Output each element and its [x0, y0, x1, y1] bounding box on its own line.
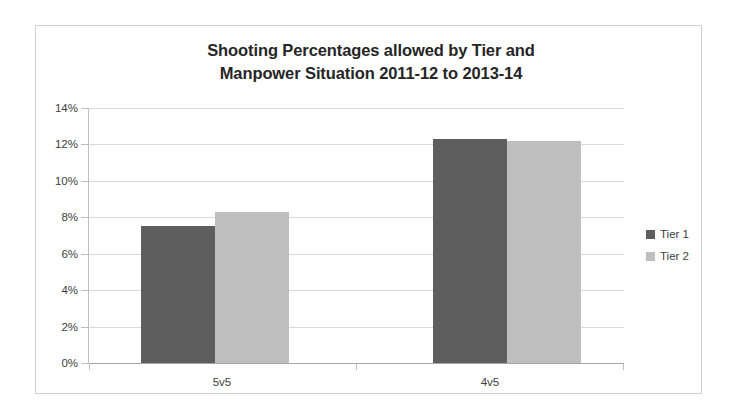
- x-axis-divider-right: [623, 363, 624, 370]
- y-axis-label-2: 2%: [18, 321, 78, 333]
- gridline-14: [89, 108, 624, 109]
- x-axis-label-4v5: 4v5: [481, 376, 500, 388]
- legend-item-tier2[interactable]: Tier 2: [646, 245, 689, 267]
- y-tick-8: [81, 217, 89, 218]
- y-axis-label-14: 14%: [18, 102, 78, 114]
- plot-area: 14% 12% 10% 8% 6% 4% 2% 0% 5v5 4v: [89, 108, 624, 363]
- bar-5v5-tier1[interactable]: [141, 226, 215, 363]
- chart-title: Shooting Percentages allowed by Tier and…: [76, 39, 666, 86]
- bar-5v5-tier2[interactable]: [215, 212, 289, 363]
- y-tick-0: [81, 363, 89, 364]
- y-tick-10: [81, 181, 89, 182]
- legend: Tier 1 Tier 2: [646, 223, 689, 267]
- legend-swatch-icon-tier2: [646, 252, 655, 261]
- chart-container: Shooting Percentages allowed by Tier and…: [35, 25, 702, 394]
- y-axis-label-12: 12%: [18, 138, 78, 150]
- legend-label-tier1: Tier 1: [660, 228, 689, 240]
- y-tick-6: [81, 254, 89, 255]
- bar-4v5-tier1[interactable]: [433, 139, 507, 363]
- bar-4v5-tier2[interactable]: [507, 141, 581, 363]
- y-tick-4: [81, 290, 89, 291]
- y-axis-label-0: 0%: [18, 357, 78, 369]
- y-tick-2: [81, 327, 89, 328]
- chart-title-line-2: Manpower Situation 2011-12 to 2013-14: [76, 62, 666, 85]
- y-axis-line: [88, 108, 89, 363]
- x-axis-divider-middle: [356, 363, 357, 370]
- y-axis-label-8: 8%: [18, 211, 78, 223]
- legend-item-tier1[interactable]: Tier 1: [646, 223, 689, 245]
- legend-label-tier2: Tier 2: [660, 250, 689, 262]
- y-tick-14: [81, 108, 89, 109]
- y-axis-label-6: 6%: [18, 248, 78, 260]
- y-tick-12: [81, 144, 89, 145]
- y-axis-label-4: 4%: [18, 284, 78, 296]
- y-axis-label-10: 10%: [18, 175, 78, 187]
- x-axis-label-5v5: 5v5: [213, 376, 232, 388]
- chart-title-line-1: Shooting Percentages allowed by Tier and: [76, 39, 666, 62]
- legend-swatch-icon-tier1: [646, 230, 655, 239]
- x-axis-divider-left: [89, 363, 90, 370]
